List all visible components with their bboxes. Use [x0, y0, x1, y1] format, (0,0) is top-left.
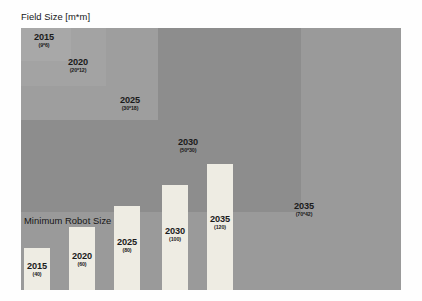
- field-size-label-2030: 2030(50*30): [178, 138, 198, 153]
- field-size-year-2030: 2030: [178, 138, 198, 147]
- robot-size-value-2015: (40): [27, 272, 47, 277]
- field-size-dims-2015: (9*6): [34, 43, 54, 48]
- field-size-caption: Field Size [m*m]: [21, 11, 90, 22]
- field-and-robot-size-diagram: Field Size [m*m] 2015(9*6)2020(20*12)202…: [0, 0, 422, 301]
- robot-size-label-2035: 2035(120): [210, 215, 230, 230]
- field-size-year-2025: 2025: [120, 96, 140, 105]
- robot-size-label-2030: 2030(100): [165, 227, 185, 242]
- robot-size-value-2035: (120): [210, 225, 230, 230]
- field-size-dims-2035: (70*42): [294, 212, 314, 217]
- robot-size-value-2030: (100): [165, 237, 185, 242]
- field-size-dims-2030: (50*30): [178, 148, 198, 153]
- field-size-dims-2025: (30*18): [120, 106, 140, 111]
- field-size-year-2035: 2035: [294, 202, 314, 211]
- field-size-label-2015: 2015(9*6): [34, 33, 54, 48]
- field-size-dims-2020: (20*12): [68, 68, 88, 73]
- robot-size-value-2025: (80): [117, 248, 137, 253]
- field-size-year-2020: 2020: [68, 58, 88, 67]
- robot-size-value-2020: (60): [72, 262, 92, 267]
- robot-size-label-2020: 2020(60): [72, 252, 92, 267]
- field-size-label-2020: 2020(20*12): [68, 58, 88, 73]
- robot-size-label-2025: 2025(80): [117, 238, 137, 253]
- robot-size-year-2035: 2035: [210, 215, 230, 224]
- robot-size-year-2015: 2015: [27, 262, 47, 271]
- field-size-label-2025: 2025(30*18): [120, 96, 140, 111]
- robot-size-year-2020: 2020: [72, 252, 92, 261]
- field-size-year-2015: 2015: [34, 33, 54, 42]
- field-size-label-2035: 2035(70*42): [294, 202, 314, 217]
- robot-size-year-2025: 2025: [117, 238, 137, 247]
- robot-size-year-2030: 2030: [165, 227, 185, 236]
- robot-size-label-2015: 2015(40): [27, 262, 47, 277]
